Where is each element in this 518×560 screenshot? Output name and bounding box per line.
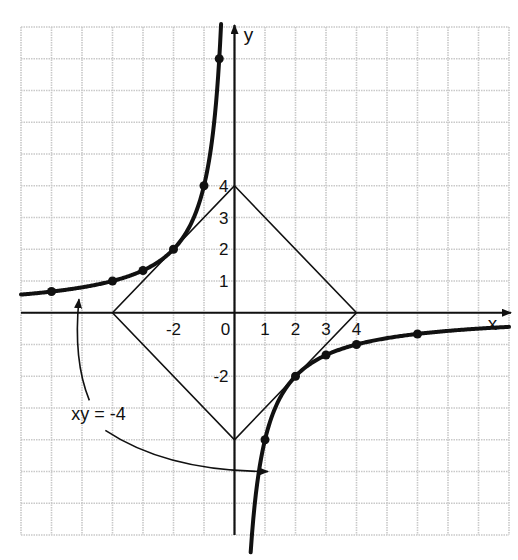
annotation-arrow-right [105, 430, 268, 471]
x-tick-label: 3 [321, 320, 330, 339]
data-point [352, 340, 361, 349]
y-axis-label: y [244, 24, 254, 45]
data-point [108, 277, 117, 286]
y-tick-label: 3 [219, 209, 228, 228]
annotation-label: xy = -4 [71, 404, 126, 424]
x-tick-label: 2 [291, 320, 300, 339]
annotation-arrow-left [77, 299, 89, 400]
data-point [291, 372, 300, 381]
data-point [322, 350, 331, 359]
x-tick-label: 4 [352, 320, 361, 339]
data-point [200, 181, 209, 190]
y-tick-label: -2 [213, 367, 228, 386]
x-axis-label: x [488, 313, 498, 334]
hyperbola-graph: -2012341234-2 xy = -4 x y [0, 0, 518, 560]
data-point [215, 54, 224, 63]
grid [21, 27, 509, 535]
y-tick-label: 4 [219, 177, 228, 196]
x-tick-label: -2 [166, 320, 181, 339]
y-tick-label: 1 [219, 272, 228, 291]
data-point [169, 245, 178, 254]
data-point [413, 330, 422, 339]
data-point [261, 435, 270, 444]
axes [21, 25, 511, 535]
x-tick-label: 0 [221, 320, 230, 339]
data-point [139, 266, 148, 275]
y-tick-label: 2 [219, 240, 228, 259]
data-point [47, 287, 56, 296]
x-tick-label: 1 [260, 320, 269, 339]
